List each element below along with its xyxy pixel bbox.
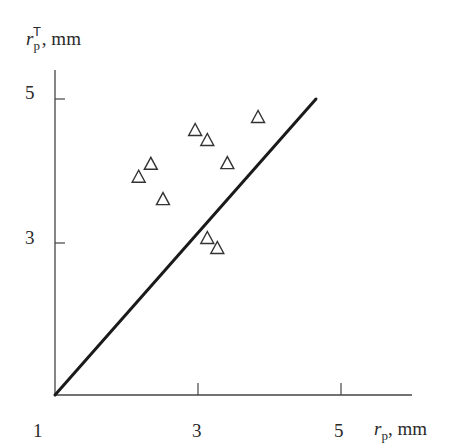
x-axis-label-subscript: p <box>381 428 388 443</box>
triangle-marker <box>132 170 145 182</box>
y-axis-label-superscript: T <box>33 24 41 39</box>
x-tick-label-1: 1 <box>33 421 43 440</box>
triangle-marker <box>201 231 214 243</box>
y-axis-label-subscript: p <box>33 38 40 53</box>
reference-line <box>55 99 316 395</box>
axes <box>55 70 412 395</box>
x-tick-label-5: 5 <box>334 421 344 440</box>
triangle-marker <box>252 111 265 123</box>
triangle-marker <box>156 193 169 205</box>
x-axis-label: rp, mm <box>374 419 427 438</box>
y-axis-label: rpT, mm <box>26 29 81 48</box>
triangle-marker <box>221 157 234 169</box>
y-axis-label-unit: , mm <box>42 28 81 49</box>
x-axis-label-unit: , mm <box>388 418 427 439</box>
triangle-marker <box>144 157 157 169</box>
x-tick-label-3: 3 <box>192 421 202 440</box>
scatter-plot <box>0 0 458 448</box>
triangle-marker <box>201 134 214 146</box>
y-tick-label-3: 3 <box>25 228 35 247</box>
y-tick-label-5: 5 <box>25 83 35 102</box>
triangle-marker <box>189 123 202 135</box>
